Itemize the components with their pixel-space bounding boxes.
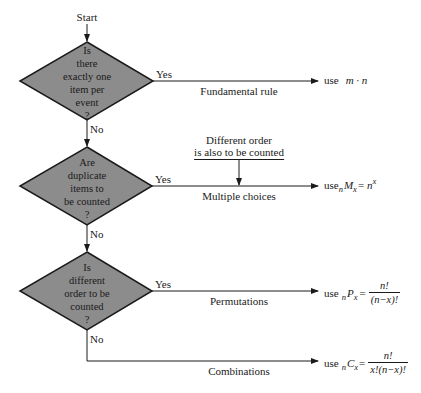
decision-1-line: event: [63, 96, 111, 109]
rhs-exponent: x: [373, 176, 377, 186]
pre-subscript: n: [342, 362, 346, 372]
denominator: (n−x)!: [369, 292, 401, 305]
decision-1-line: exactly one: [63, 70, 111, 83]
branch-label-multiple-choices: Multiple choices: [202, 190, 276, 202]
decision-3-line: Is: [64, 261, 109, 274]
result-prefix: use: [324, 357, 339, 369]
yes-label-2: Yes: [155, 173, 171, 185]
result-permutations: use n P x = n! (n−x)!: [324, 280, 400, 305]
branch-label-combinations: Combinations: [208, 365, 270, 377]
result-combinations: use n C x = n! x!(n−x)!: [324, 350, 408, 375]
no-label-1: No: [90, 123, 103, 135]
pre-subscript: n: [342, 292, 346, 302]
fraction: n! x!(n−x)!: [368, 350, 408, 375]
no-label-2: No: [90, 228, 103, 240]
result-prefix: use: [324, 74, 339, 86]
decision-1-text: Is there exactly one item per event ?: [63, 44, 111, 122]
decision-1-line: there: [63, 57, 111, 70]
formula-symbol: M: [344, 179, 353, 191]
yes-label-1: Yes: [156, 68, 172, 80]
branch-label-permutations: Permutations: [210, 295, 268, 307]
decision-2-line: items to: [64, 182, 110, 195]
decision-2-text: Are duplicate items to be counted ?: [64, 156, 110, 221]
result-multiple-choices: use n M x = n x: [324, 179, 376, 191]
numerator: n!: [378, 280, 391, 292]
branch-label-fundamental-rule: Fundamental rule: [200, 85, 277, 97]
decision-1-line: Is: [63, 44, 111, 57]
result-prefix: use: [324, 179, 339, 191]
decision-2-line: duplicate: [64, 169, 110, 182]
decision-3-text: Is different order to be counted ?: [64, 261, 109, 326]
equals-sign: =: [358, 179, 364, 191]
decision-2-line: Are: [64, 156, 110, 169]
result-prefix: use: [324, 287, 339, 299]
note-line-2: is also to be counted: [194, 146, 284, 160]
decision-1-line: ?: [63, 109, 111, 122]
start-label: Start: [77, 11, 98, 23]
decision-3-line: ?: [64, 313, 109, 326]
numerator: n!: [382, 350, 395, 362]
decision-1-line: item per: [63, 83, 111, 96]
no-label-3: No: [90, 333, 103, 345]
post-subscript: x: [353, 184, 357, 194]
note-line-1: Different order: [194, 134, 284, 146]
decision-3-line: order to be: [64, 287, 109, 300]
decision-3-line: counted: [64, 300, 109, 313]
decision-3-line: different: [64, 274, 109, 287]
decision-2-line: ?: [64, 208, 110, 221]
decision-2-line: be counted: [64, 195, 110, 208]
formula-symbol: P: [347, 287, 354, 299]
post-subscript: x: [354, 292, 358, 302]
result-fundamental-rule: use m · n: [324, 74, 367, 86]
equals-sign: =: [359, 357, 365, 369]
post-subscript: x: [354, 362, 358, 372]
fraction: n! (n−x)!: [369, 280, 401, 305]
denominator: x!(n−x)!: [368, 362, 408, 375]
formula-m-times-n: m · n: [346, 74, 368, 86]
yes-label-3: Yes: [155, 278, 171, 290]
equals-sign: =: [359, 287, 365, 299]
pre-subscript: n: [339, 184, 343, 194]
note-different-order: Different order is also to be counted: [194, 134, 284, 160]
